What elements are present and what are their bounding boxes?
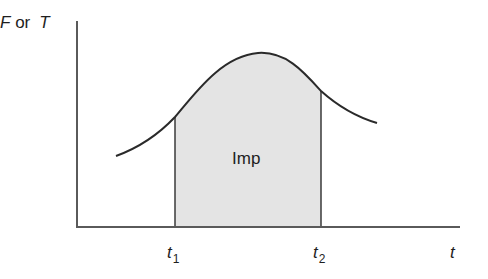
impulse-label: Imp [232, 150, 260, 167]
t2-base: t [313, 243, 318, 262]
t1-subscript: 1 [173, 252, 180, 266]
t2-tick-label: t2 [313, 244, 325, 261]
t1-base: t [167, 243, 172, 262]
t2-subscript: 2 [319, 252, 326, 266]
y-axis-label-t: T [39, 13, 49, 32]
y-axis-label-f: F [0, 13, 10, 32]
impulse-shaded-area [175, 53, 321, 227]
y-axis-label: F orT [0, 14, 50, 31]
y-axis-label-or: or [15, 13, 30, 32]
impulse-diagram [0, 0, 488, 279]
x-axis-label: t [450, 244, 455, 261]
t1-tick-label: t1 [167, 244, 179, 261]
